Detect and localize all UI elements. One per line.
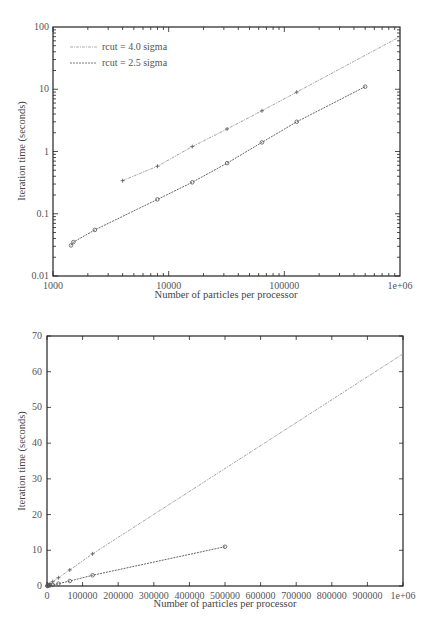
y-tick-label: 60 — [32, 366, 42, 377]
y-tick-label: 50 — [32, 401, 42, 412]
x-tick-label: 0 — [45, 590, 50, 601]
y-tick-label: 40 — [32, 437, 42, 448]
y-axis-label: Iteration time (seconds) — [16, 101, 28, 201]
x-tick-label: 800000 — [317, 590, 347, 601]
data-point — [190, 181, 194, 185]
y-axis-label: Iteration time (seconds) — [16, 411, 28, 511]
x-tick-label: 1e+06 — [387, 280, 412, 291]
tick-labels: 0100000200000300000400000500000600000700… — [32, 330, 416, 601]
y-tick-label: 100 — [34, 21, 49, 32]
x-axis-label: Number of particles per processor — [155, 289, 298, 300]
y-tick-label: 1 — [44, 146, 49, 157]
linear-chart: 0100000200000300000400000500000600000700… — [16, 330, 416, 609]
x-tick-label: 100000 — [68, 590, 98, 601]
series-line — [48, 547, 225, 586]
legend: rcut = 4.0 sigma rcut = 2.5 sigma — [70, 41, 168, 68]
data-point — [69, 244, 73, 248]
figure: 1000100001000001e+060.010.1110100 rcut =… — [0, 0, 426, 623]
y-tick-label: 30 — [32, 473, 42, 484]
tick-labels: 1000100001000001e+060.010.1110100 — [32, 21, 413, 291]
y-tick-label: 0 — [37, 580, 42, 591]
data-point — [295, 120, 299, 124]
x-tick-label: 1e+06 — [390, 590, 415, 601]
data-point — [156, 198, 160, 202]
legend-entry-rcut-2-5: rcut = 2.5 sigma — [102, 57, 168, 68]
series-line — [71, 87, 365, 246]
y-tick-label: 0.01 — [32, 270, 50, 281]
x-tick-label: 200000 — [103, 590, 133, 601]
y-tick-label: 0.1 — [37, 208, 50, 219]
y-tick-label: 10 — [39, 83, 49, 94]
legend-entry-rcut-4: rcut = 4.0 sigma — [102, 41, 168, 52]
data-point — [363, 85, 367, 89]
y-tick-label: 10 — [32, 544, 42, 555]
series-lines — [46, 354, 403, 588]
log-log-chart: 1000100001000001e+060.010.1110100 rcut =… — [16, 21, 413, 300]
series-lines — [69, 37, 400, 248]
x-axis-label: Number of particles per processor — [154, 598, 297, 609]
y-tick-label: 20 — [32, 509, 42, 520]
series-line — [48, 354, 403, 585]
x-tick-label: 1000 — [43, 280, 63, 291]
data-point — [225, 161, 229, 165]
x-tick-label: 900000 — [352, 590, 382, 601]
y-tick-label: 70 — [32, 330, 42, 341]
